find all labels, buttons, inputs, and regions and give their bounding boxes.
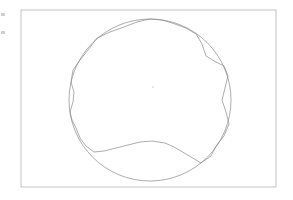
plot-frame — [21, 10, 276, 187]
center-mark-icon — [152, 86, 154, 88]
figure-container — [0, 0, 293, 200]
figure-canvas — [0, 0, 293, 200]
